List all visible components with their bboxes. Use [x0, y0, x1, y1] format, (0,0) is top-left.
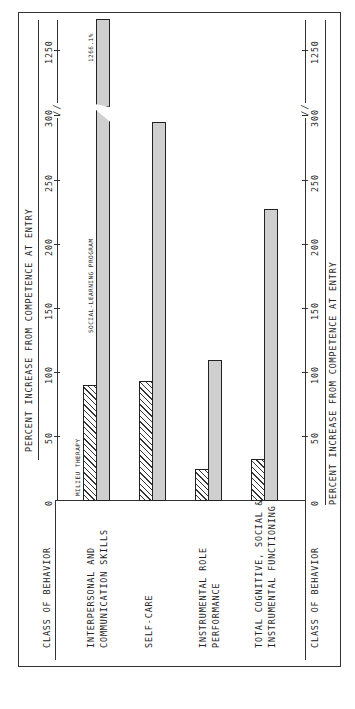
tick-label-top-250: 250	[44, 174, 54, 192]
category-label-total-1: TOTAL COGNITIVE, SOCIAL &	[254, 499, 264, 648]
axis-line-bottom-outer	[325, 20, 326, 505]
tick-label-bottom-50: 50	[310, 432, 320, 444]
tick-top-100	[54, 372, 60, 373]
tick-top-1250	[54, 50, 60, 51]
tick-label-bottom-100: 100	[310, 366, 320, 384]
tick-label-bottom-1250: 1250	[310, 40, 320, 64]
tick-label-top-100: 100	[44, 366, 54, 384]
axis-line-bottom	[305, 20, 306, 103]
bar-milieu-total	[251, 459, 265, 501]
tick-top-200	[54, 244, 60, 245]
class-header-top: CLASS OF BEHAVIOR	[42, 547, 52, 648]
tick-label-bottom-0: 0	[310, 500, 320, 506]
chart-frame	[18, 12, 341, 667]
bar-social-interpersonal-upper	[96, 19, 110, 107]
tick-bottom-1250	[302, 50, 308, 51]
bar-milieu-instrumental	[195, 469, 209, 501]
tick-top-150	[54, 308, 60, 309]
bar-milieu-interpersonal	[83, 385, 97, 501]
tick-label-top-200: 200	[44, 238, 54, 256]
tick-top-50	[54, 436, 60, 437]
bar-milieu-self-care	[139, 381, 153, 501]
tick-label-top-0: 0	[44, 500, 54, 506]
tick-bottom-100	[302, 372, 308, 373]
class-header-bottom: CLASS OF BEHAVIOR	[310, 547, 320, 648]
tick-bottom-50	[302, 436, 308, 437]
bar-social-self-care	[152, 122, 166, 501]
axis-title-bottom: PERCENT INCREASE FROM COMPETENCE AT ENTR…	[328, 261, 338, 505]
axis-line-bottom-lower	[305, 118, 306, 660]
tick-bottom-250	[302, 180, 308, 181]
tick-label-bottom-250: 250	[310, 174, 320, 192]
category-label-total-2: INSTRUMENTAL FUNCTIONING	[267, 505, 277, 648]
tick-label-bottom-300: 300	[310, 109, 320, 127]
category-label-interpersonal-1: INTERPERSONAL AND	[86, 547, 96, 648]
axis-break-bottom: //	[300, 103, 310, 116]
category-label-self-care: SELF-CARE	[144, 595, 154, 648]
tick-top-250	[54, 180, 60, 181]
tick-label-bottom-150: 150	[310, 302, 320, 320]
break-value-label: 1266.1%	[87, 33, 94, 62]
bar-social-interpersonal-lower	[96, 110, 110, 501]
axis-line-top	[57, 20, 58, 103]
tick-label-top-150: 150	[44, 302, 54, 320]
tick-label-top-1250: 1250	[44, 40, 54, 64]
series-label-milieu: MILIEU THERAPY	[74, 438, 81, 496]
tick-bottom-150	[302, 308, 308, 309]
series-label-social: SOCIAL-LEARNING PROGRAM	[87, 238, 94, 333]
tick-label-top-50: 50	[44, 432, 54, 444]
tick-label-bottom-200: 200	[310, 238, 320, 256]
axis-line-top-lower	[57, 118, 58, 500]
axis-title-top: PERCENT INCREASE FROM COMPETENCE AT ENTR…	[24, 208, 34, 452]
tick-bottom-200	[302, 244, 308, 245]
class-header-top-rule	[55, 500, 56, 660]
axis-break-top: //	[52, 103, 62, 116]
axis-title-top-rule	[38, 20, 39, 460]
category-label-interpersonal-2: COMMUNICATION SKILLS	[99, 529, 109, 648]
bar-social-total	[264, 209, 278, 501]
bar-social-instrumental	[208, 360, 222, 501]
category-label-instrumental-1: INSTRUMENTAL ROLE	[198, 547, 208, 648]
category-label-instrumental-2: PERFORMANCE	[211, 583, 221, 648]
